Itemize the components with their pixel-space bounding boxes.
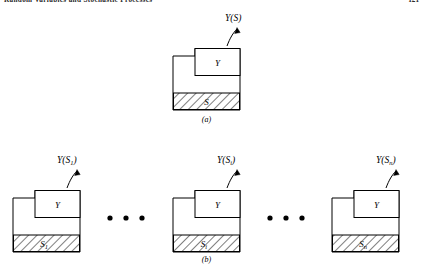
output-label-close: ) (231, 155, 235, 166)
ellipsis-dot (139, 215, 144, 220)
panel-b-unit-n-output-label: Y(Sn) (376, 155, 396, 166)
panel-a: S Y Y(S) (a) (173, 13, 241, 124)
panel-b-unit-n-output-arrow (386, 170, 399, 189)
panel-b-unit-1-output-arrow (67, 170, 80, 189)
panel-b-unit-i: Si Y Y(Si) (173, 155, 240, 252)
panel-a-output-label: Y(S) (225, 13, 241, 24)
ellipsis-dot (123, 215, 128, 220)
panel-a-base-label: S (204, 97, 209, 107)
panel-b-unit-n: Sn Y Y(Sn) (332, 155, 399, 252)
panel-a-output-label-base: Y(S (225, 13, 238, 24)
panel-a-output-label-close: ) (237, 13, 241, 24)
ellipsis-dot (299, 215, 304, 220)
output-label-base: Y(S (376, 155, 389, 166)
ellipsis-dot (107, 215, 112, 220)
panel-b-unit-i-output-arrow (227, 170, 240, 189)
base-label-subscript: 1 (45, 243, 48, 250)
panel-a-sample-space-base: S (174, 93, 240, 110)
base-label-subscript: n (364, 243, 367, 250)
panel-a-caption: (a) (202, 115, 212, 124)
output-label-close: ) (72, 155, 76, 166)
output-label-close: ) (391, 155, 395, 166)
panel-b-unit-i-output-label: Y(Si) (217, 155, 235, 166)
panel-b-unit-1: S1 Y Y(S1) (13, 155, 80, 252)
panel-a-output-arrow (227, 28, 240, 47)
base-label-subscript: i (205, 243, 207, 250)
ellipsis-dot (283, 215, 288, 220)
panel-b-unit-1-output-label: Y(S1) (57, 155, 77, 166)
ellipsis-dot (267, 215, 272, 220)
ellipsis-right (267, 215, 304, 220)
figure-random-variable-mapping: S Y Y(S) (a) S1 Y Y(S1) (0, 0, 424, 264)
ellipsis-left (107, 215, 144, 220)
output-label-base: Y(S (57, 155, 70, 166)
output-label-base: Y(S (217, 155, 230, 166)
panel-b-caption: (b) (202, 255, 212, 264)
panel-a-y-box: Y (195, 49, 240, 76)
